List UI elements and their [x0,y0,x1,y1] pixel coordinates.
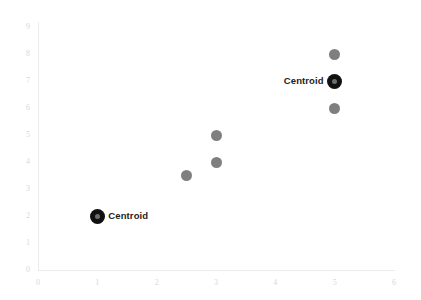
x-tick-label: 1 [86,279,108,287]
y-axis-line [38,22,39,271]
plot-area: 0123456789 0123456 CentroidCentroid [0,0,421,300]
data-point [329,103,340,114]
x-tick-label: 2 [146,279,168,287]
x-tick-label: 3 [205,279,227,287]
centroid-marker [327,74,342,89]
x-tick-label: 0 [27,279,49,287]
data-point [211,157,222,168]
x-tick-label: 6 [383,279,405,287]
y-tick-label: 2 [8,212,30,220]
data-point [211,130,222,141]
data-point [181,170,192,181]
y-tick-label: 7 [8,77,30,85]
scatter-plot-figure: 0123456789 0123456 CentroidCentroid [0,0,421,300]
y-tick-label: 3 [8,185,30,193]
y-tick-label: 4 [8,158,30,166]
y-tick-label: 8 [8,50,30,58]
x-axis-line [38,270,395,271]
x-tick-label: 5 [324,279,346,287]
centroid-label: Centroid [108,211,148,221]
y-tick-label: 9 [8,23,30,31]
y-tick-label: 5 [8,131,30,139]
x-tick-label: 4 [264,279,286,287]
y-tick-label: 1 [8,239,30,247]
centroid-label: Centroid [284,76,324,86]
centroid-marker [90,209,105,224]
y-tick-label: 6 [8,104,30,112]
y-tick-label: 0 [8,266,30,274]
data-point [329,49,340,60]
